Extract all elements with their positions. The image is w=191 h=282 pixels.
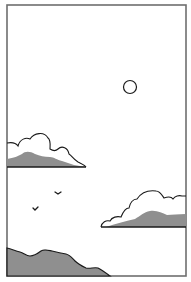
sky-illustration [0,0,191,282]
panel-frame [7,5,186,276]
